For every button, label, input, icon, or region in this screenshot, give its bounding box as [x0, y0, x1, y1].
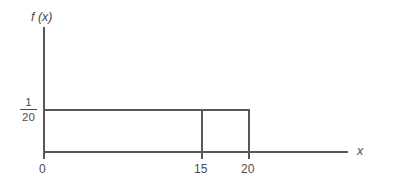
x-tick-label-0: 0	[39, 163, 46, 175]
boundary-line-20	[248, 109, 250, 152]
uniform-distribution-figure: f (x) x 0 15 20 1 20	[0, 0, 393, 193]
fraction-numerator: 1	[17, 96, 40, 109]
x-tick-15	[201, 152, 203, 159]
y-axis-label: f (x)	[31, 11, 53, 24]
x-axis-label: x	[357, 145, 363, 158]
y-axis-line	[43, 27, 45, 153]
x-tick-label-15: 15	[194, 163, 207, 175]
x-tick-label-20: 20	[241, 163, 254, 175]
x-axis-line	[43, 151, 348, 153]
boundary-line-15	[201, 109, 203, 152]
x-tick-0	[43, 152, 45, 159]
x-tick-20	[248, 152, 250, 159]
fraction-denominator: 20	[17, 110, 40, 123]
y-tick-label-fraction: 1 20	[17, 96, 40, 123]
density-top-edge	[43, 109, 250, 111]
